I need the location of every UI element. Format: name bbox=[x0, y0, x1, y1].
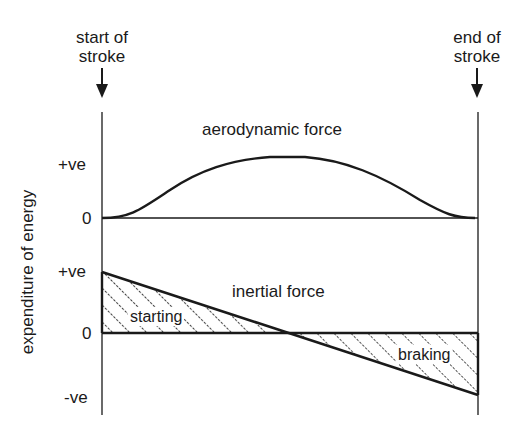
aerodynamic-title: aerodynamic force bbox=[202, 120, 342, 139]
inertial-tick-negative: -ve bbox=[64, 388, 88, 407]
aerodynamic-tick-positive: +ve bbox=[58, 155, 86, 174]
aerodynamic-tick-zero: 0 bbox=[82, 209, 91, 228]
inertial-tick-positive: +ve bbox=[58, 262, 86, 281]
end-label-line2: stroke bbox=[437, 47, 517, 66]
braking-region-label: braking bbox=[396, 345, 452, 364]
inertial-title: inertial force bbox=[232, 282, 325, 301]
inertial-tick-zero: 0 bbox=[82, 324, 91, 343]
start-arrow-icon bbox=[96, 68, 108, 98]
start-of-stroke-label: start of stroke bbox=[62, 28, 142, 66]
start-label-line2: stroke bbox=[62, 47, 142, 66]
y-axis-label: expenditure of energy bbox=[18, 182, 38, 362]
starting-region-label: starting bbox=[128, 307, 184, 326]
start-label-line1: start of bbox=[62, 28, 142, 47]
end-label-line1: end of bbox=[437, 28, 517, 47]
end-of-stroke-label: end of stroke bbox=[437, 28, 517, 66]
end-arrow-icon bbox=[471, 68, 483, 98]
aerodynamic-force-curve bbox=[102, 157, 475, 218]
